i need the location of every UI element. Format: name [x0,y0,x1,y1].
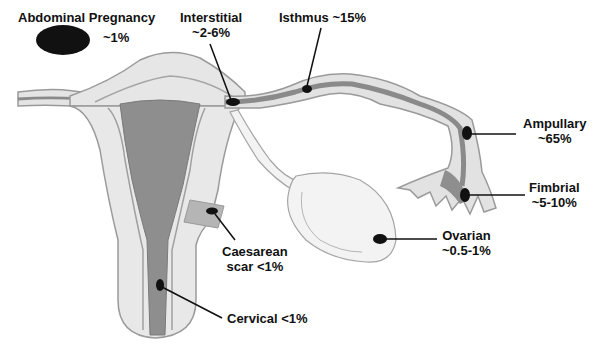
caesarean-marker [206,208,218,215]
label-ampullary: Ampullary ~65% [523,116,587,146]
label-cervical: Cervical <1% [227,311,308,326]
isthmus-marker [302,85,312,93]
label-ovarian: Ovarian ~0.5-1% [442,228,491,258]
label-abdominal-pct: ~1% [103,30,129,45]
ovarian-ligament [230,110,300,192]
abdominal-marker [36,25,90,55]
uterus-anatomy-diagram [0,0,599,348]
label-isthmus: Isthmus ~15% [279,10,366,25]
label-abdominal: Abdominal Pregnancy [18,10,155,25]
label-fimbrial: Fimbrial ~5-10% [529,180,580,210]
ovarian-marker [373,234,387,244]
interstitial-marker [226,98,240,106]
label-interstitial: Interstitial ~2-6% [180,10,242,40]
label-caesarean: Caesarean scar <1% [222,244,288,274]
cervical-marker [156,279,164,291]
uterus-fundus [70,52,245,106]
ampullary-marker [462,126,472,140]
